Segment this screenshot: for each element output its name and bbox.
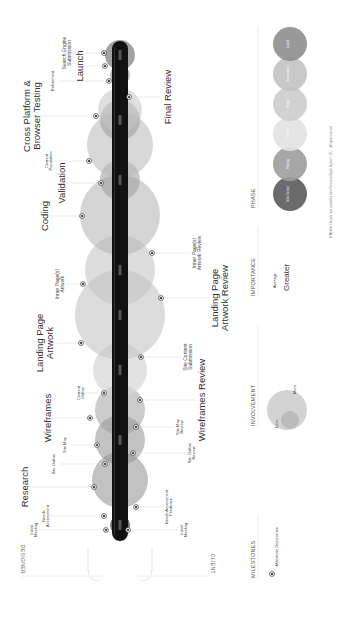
timeline-tick-marker bbox=[119, 50, 122, 60]
milestone-dot-center bbox=[96, 444, 98, 446]
milestone-dot-center bbox=[88, 160, 90, 162]
milestone-dot-center bbox=[108, 80, 110, 82]
legend-milestone-occurrence: Milestone Occurrence bbox=[275, 527, 279, 566]
milestone-dot-center bbox=[81, 215, 83, 217]
designer-milestone-label: Landing PageArtwork bbox=[35, 314, 54, 373]
timeline-tick-marker bbox=[119, 520, 122, 530]
client-milestone-label: Site OutlineReview bbox=[188, 443, 196, 464]
website-lifecycle-diagram: InitialMeetingNeedsAssessmentResearchSit… bbox=[0, 0, 338, 626]
designer-milestone-label: Site Outline bbox=[52, 454, 56, 475]
milestone-dot-center bbox=[93, 486, 95, 488]
legend-phase-title: PHASE bbox=[250, 188, 256, 208]
designer-milestone-label: Wireframes bbox=[43, 394, 53, 443]
legend-milestone-dot-center bbox=[271, 573, 273, 575]
legend-phase-label: Planning bbox=[288, 159, 291, 169]
timeline-tick-marker bbox=[119, 310, 122, 320]
designer-milestone-label: Inner Page(s)Artwork bbox=[55, 269, 65, 299]
milestone-dot-center bbox=[103, 52, 105, 54]
milestone-dot-center bbox=[132, 452, 134, 454]
milestone-dot-center bbox=[103, 515, 105, 517]
milestone-dot-center bbox=[104, 65, 106, 67]
milestone-dot-center bbox=[135, 506, 137, 508]
designer-milestone-label: ContentPopulation bbox=[45, 152, 53, 171]
client-milestone-label: Inner Page(s)Artwork Review bbox=[192, 236, 202, 271]
milestone-dot-center bbox=[128, 96, 130, 98]
legend-importance-title: IMPORTANCE bbox=[250, 258, 256, 296]
legend-milestones-title: MILESTONES bbox=[250, 541, 256, 578]
milestone-dot-center bbox=[151, 252, 153, 254]
designer-milestone-label: ContentOutline bbox=[77, 386, 85, 400]
legend-involvement-more: More bbox=[293, 385, 297, 394]
designer-milestone-label: Validation bbox=[57, 162, 67, 203]
timeline-tick-marker bbox=[119, 265, 122, 275]
designer-milestone-label: Refinement bbox=[51, 71, 55, 91]
legend-phase-label: Content bbox=[288, 129, 291, 138]
legend-importance-greater: Greater bbox=[283, 264, 291, 291]
designer-milestone-label: Coding bbox=[40, 201, 50, 231]
milestone-dot-center bbox=[160, 297, 162, 299]
legend-phase-label: Launch bbox=[288, 40, 291, 49]
timeline-tick-marker bbox=[119, 115, 122, 125]
client-milestone-label: Site ContentSubmission bbox=[183, 343, 193, 371]
milestone-dot-center bbox=[139, 399, 141, 401]
designer-milestone-label: Launch bbox=[75, 50, 85, 81]
legend-involvement-title: INVOLVEMENT bbox=[250, 385, 256, 426]
client-milestone-label: Landing PageArtwork Review bbox=[210, 265, 229, 331]
legend-involvement-less-bubble bbox=[281, 411, 299, 429]
designer-milestone-label: Cross Platform &Browser Testing bbox=[22, 80, 41, 152]
legend-phase-label: Initial Contact bbox=[288, 186, 291, 202]
legend-involvement-less: Less bbox=[275, 420, 279, 428]
footer-credit: A 'Website' Lifecycle' was created by Jo… bbox=[330, 126, 333, 238]
client-milestone-label: InitialMeeting bbox=[180, 523, 188, 537]
legend-phase-label: Development bbox=[288, 66, 291, 81]
legend-importance-average: Average bbox=[273, 273, 277, 288]
milestone-dot-center bbox=[80, 342, 82, 344]
milestone-dot-center bbox=[105, 529, 107, 531]
timeline-tick-marker bbox=[119, 175, 122, 185]
milestone-dot-center bbox=[89, 417, 91, 419]
legend-phase-label: Design bbox=[288, 100, 291, 108]
milestone-dot-center bbox=[103, 392, 105, 394]
designer-milestone-label: Research bbox=[20, 467, 30, 508]
milestone-dot-center bbox=[135, 426, 137, 428]
designer-milestone-label: InitialMeeting bbox=[30, 523, 38, 537]
timeline-tick-marker bbox=[119, 435, 122, 445]
milestone-dot-center bbox=[82, 283, 84, 285]
designer-milestone-label: Search EngineSubmission bbox=[62, 37, 72, 70]
client-milestone-label: Final Review bbox=[163, 70, 173, 124]
designer-milestone-label: Site Map bbox=[63, 437, 67, 453]
milestone-dot-center bbox=[140, 356, 142, 358]
client-milestone-label: Site MapReview bbox=[176, 419, 184, 435]
timeline-tick-marker bbox=[119, 365, 122, 375]
milestone-dot-center bbox=[104, 463, 106, 465]
milestone-dot-center bbox=[100, 182, 102, 184]
milestone-dot-center bbox=[127, 529, 129, 531]
designer-milestone-label: NeedsAssessment bbox=[42, 505, 50, 527]
milestone-dot-center bbox=[95, 115, 97, 117]
role-client: CLIENT bbox=[210, 554, 216, 574]
client-milestone-label: Needs AssessmentFeedback bbox=[165, 490, 173, 524]
client-milestone-label: Wireframes Review bbox=[197, 359, 207, 441]
role-designer: DESIGNER bbox=[20, 545, 26, 574]
